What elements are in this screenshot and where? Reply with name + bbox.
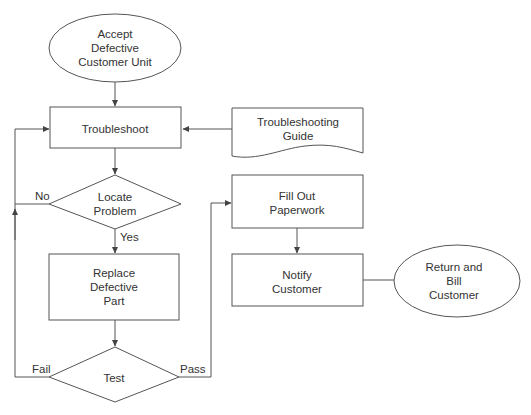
node-label-line: Customer (272, 283, 322, 295)
edge-label-no: No (35, 190, 50, 202)
node-troubleshooting-guide: Troubleshooting Guide (232, 108, 363, 157)
node-troubleshoot: Troubleshoot (50, 107, 181, 148)
edge-label-fail: Fail (32, 363, 51, 375)
node-label-line: Notify (282, 269, 312, 281)
node-label-line: Test (103, 372, 125, 384)
node-label-line: Defective (90, 281, 138, 293)
node-notify-customer: Notify Customer (232, 254, 363, 306)
edge-label-pass: Pass (180, 363, 206, 375)
node-locate-problem: Locate Problem (49, 175, 181, 229)
node-label-line: Troubleshoot (82, 123, 150, 135)
node-label-line: Customer (429, 289, 479, 301)
node-label-line: Defective (91, 42, 139, 54)
node-label-line: Accept (97, 28, 133, 40)
node-test: Test (49, 347, 179, 402)
node-label-line: Replace (93, 267, 135, 279)
node-replace-defective-part: Replace Defective Part (49, 254, 179, 320)
node-return-and-bill-customer: Return and Bill Customer (394, 245, 520, 317)
edge-test-fail-loop (15, 129, 49, 377)
edge-label-yes: Yes (120, 231, 139, 243)
node-label-line: Fill Out (279, 190, 316, 202)
node-accept-defective-unit: Accept Defective Customer Unit (49, 14, 181, 82)
node-label-line: Bill (446, 275, 461, 287)
node-label-line: Paperwork (270, 204, 325, 216)
node-label-line: Customer Unit (78, 56, 152, 68)
node-label-line: Return and (426, 261, 483, 273)
node-label-line: Troubleshooting (257, 116, 339, 128)
node-label-line: Guide (283, 130, 314, 142)
node-fill-out-paperwork: Fill Out Paperwork (232, 175, 363, 228)
node-label-line: Part (103, 295, 125, 307)
node-label-line: Locate (98, 191, 133, 203)
node-label-line: Problem (94, 205, 137, 217)
flowchart-canvas: Accept Defective Customer Unit Troublesh… (0, 0, 531, 415)
edge-test-pass (179, 203, 231, 377)
